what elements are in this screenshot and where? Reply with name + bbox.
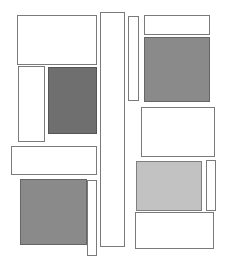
right-dark-box xyxy=(144,37,210,102)
right-middle-box xyxy=(141,107,215,157)
bottom-right-box xyxy=(135,212,214,249)
left-dark-box xyxy=(48,67,97,134)
bottom-left-narrow-box xyxy=(87,180,97,256)
right-narrow-box xyxy=(206,160,216,211)
left-wide-box xyxy=(11,146,97,175)
left-narrow-box xyxy=(18,66,45,142)
right-light-box xyxy=(136,161,202,211)
bottom-left-dark-box xyxy=(20,179,87,245)
top-left-box xyxy=(17,15,97,65)
top-right-box xyxy=(144,15,210,35)
center-tall-column xyxy=(100,12,125,247)
right-narrow-bar xyxy=(128,16,139,101)
